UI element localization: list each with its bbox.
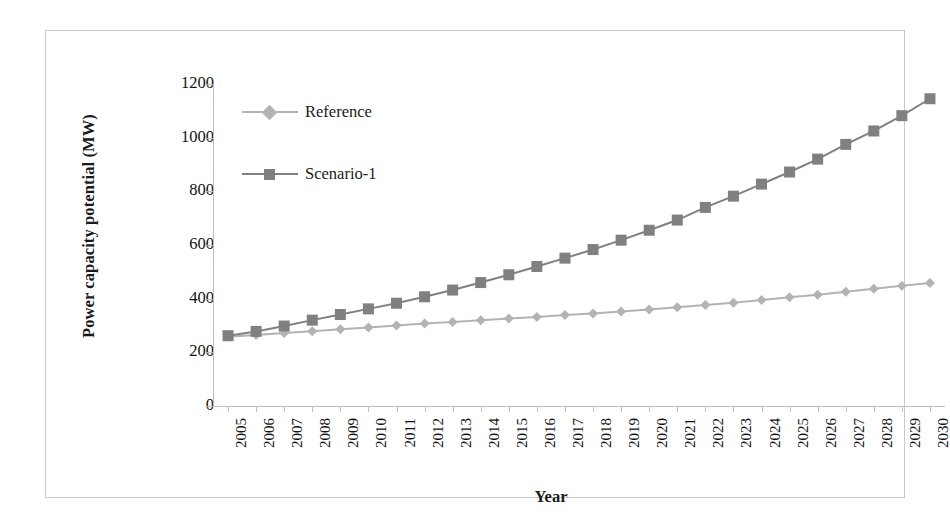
legend-label-scenario-1: Scenario-1 xyxy=(305,164,376,184)
data-point-square xyxy=(279,321,290,332)
x-tick-label: 2015 xyxy=(515,418,530,448)
x-tick-mark xyxy=(762,406,763,412)
x-axis-title: Year xyxy=(476,487,626,507)
x-tick-mark xyxy=(790,406,791,412)
data-point-diamond xyxy=(448,317,458,327)
x-tick-label: 2016 xyxy=(543,418,558,448)
x-tick-label: 2030 xyxy=(936,418,950,448)
x-tick-mark xyxy=(397,406,398,412)
x-tick-mark xyxy=(453,406,454,412)
data-point-diamond xyxy=(588,308,598,318)
figure-frame: Power capacity potential (MW) 0200400600… xyxy=(45,30,905,498)
data-point-square xyxy=(475,277,486,288)
data-point-diamond xyxy=(363,322,373,332)
data-point-square xyxy=(728,191,739,202)
data-point-square xyxy=(335,309,346,320)
x-tick-mark xyxy=(256,406,257,412)
x-tick-label: 2009 xyxy=(346,418,361,448)
data-point-diamond xyxy=(420,319,430,329)
data-point-diamond xyxy=(560,310,570,320)
y-tick-label: 1000 xyxy=(156,129,214,146)
x-tick-label: 2013 xyxy=(459,418,474,448)
x-tick-label: 2005 xyxy=(234,418,249,448)
data-point-diamond xyxy=(728,298,738,308)
x-tick-label: 2028 xyxy=(880,418,895,448)
x-tick-label: 2019 xyxy=(627,418,642,448)
series-reference xyxy=(223,278,935,342)
x-tick-mark xyxy=(340,406,341,412)
data-point-diamond xyxy=(644,304,654,314)
y-tick-label: 0 xyxy=(156,397,214,414)
x-tick-label: 2027 xyxy=(852,418,867,448)
data-point-square xyxy=(616,235,627,246)
x-tick-mark xyxy=(733,406,734,412)
data-point-square xyxy=(223,330,234,341)
data-point-square xyxy=(756,179,767,190)
x-tick-mark xyxy=(621,406,622,412)
x-tick-label: 2026 xyxy=(824,418,839,448)
x-tick-mark xyxy=(565,406,566,412)
x-tick-mark xyxy=(818,406,819,412)
y-tick-label: 1200 xyxy=(156,75,214,92)
data-point-square xyxy=(447,285,458,296)
x-tick-label: 2023 xyxy=(739,418,754,448)
data-point-square xyxy=(419,291,430,302)
x-tick-mark xyxy=(284,406,285,412)
data-point-square xyxy=(588,244,599,255)
series-line xyxy=(228,283,930,337)
legend-swatch-reference xyxy=(242,104,298,120)
x-tick-label: 2018 xyxy=(599,418,614,448)
legend-label-reference: Reference xyxy=(305,102,372,122)
legend-swatch-scenario-1 xyxy=(242,166,298,182)
data-point-square xyxy=(840,139,851,150)
data-point-square xyxy=(700,202,711,213)
x-tick-label: 2029 xyxy=(908,418,923,448)
data-point-square xyxy=(559,253,570,264)
x-tick-mark xyxy=(705,406,706,412)
x-tick-mark xyxy=(425,406,426,412)
data-point-square xyxy=(644,225,655,236)
data-point-diamond xyxy=(841,287,851,297)
x-tick-mark xyxy=(509,406,510,412)
legend-item-scenario-1[interactable]: Scenario-1 xyxy=(242,163,472,185)
x-axis-line xyxy=(213,406,945,407)
data-point-square xyxy=(672,215,683,226)
data-point-square xyxy=(531,261,542,272)
x-tick-mark xyxy=(902,406,903,412)
data-point-diamond xyxy=(700,300,710,310)
y-tick-label: 200 xyxy=(156,343,214,360)
x-tick-label: 2021 xyxy=(683,418,698,448)
data-point-square xyxy=(251,326,262,337)
data-point-square xyxy=(868,125,879,136)
data-point-square xyxy=(307,315,318,326)
x-tick-mark xyxy=(368,406,369,412)
x-tick-label: 2022 xyxy=(711,418,726,448)
y-axis-title: Power capacity potential (MW) xyxy=(76,61,102,391)
x-tick-label: 2017 xyxy=(571,418,586,448)
data-point-diamond xyxy=(616,307,626,317)
data-point-diamond xyxy=(785,292,795,302)
data-point-square xyxy=(924,93,935,104)
data-point-square xyxy=(812,154,823,165)
x-tick-mark xyxy=(930,406,931,412)
x-tick-mark xyxy=(846,406,847,412)
x-tick-label: 2012 xyxy=(431,418,446,448)
x-tick-label: 2008 xyxy=(318,418,333,448)
x-tick-mark xyxy=(228,406,229,412)
data-point-diamond xyxy=(757,295,767,305)
legend-item-reference[interactable]: Reference xyxy=(242,101,472,123)
data-point-square xyxy=(784,167,795,178)
x-tick-label: 2014 xyxy=(487,418,502,448)
x-tick-mark xyxy=(481,406,482,412)
data-point-diamond xyxy=(532,312,542,322)
x-tick-label: 2007 xyxy=(290,418,305,448)
data-point-diamond xyxy=(897,281,907,291)
data-point-diamond xyxy=(307,326,317,336)
x-tick-mark xyxy=(677,406,678,412)
x-tick-label: 2011 xyxy=(403,418,418,447)
data-point-square xyxy=(363,303,374,314)
data-point-diamond xyxy=(925,278,935,288)
x-tick-mark xyxy=(593,406,594,412)
x-tick-mark xyxy=(874,406,875,412)
x-tick-mark xyxy=(649,406,650,412)
